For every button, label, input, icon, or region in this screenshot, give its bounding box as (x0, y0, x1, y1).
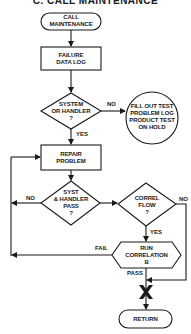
repair-problem-label: REPAIR PROBLEM (41, 151, 101, 165)
correl-flow-label: CORREL FLOW ? (118, 195, 176, 216)
failure-data-log-label: FAILURE DATA LOG (41, 52, 101, 66)
system-or-handler-label: SYSTEM OR HANDLER ? (41, 101, 101, 122)
run-pass-label: PASS (127, 270, 143, 277)
system-yes-label: YES (76, 131, 88, 138)
syst-handler-pass-label: SYST & HANDLER PASS ? (41, 189, 101, 217)
correl-yes-label: YES (150, 229, 162, 236)
run-fail-label: FAIL (95, 245, 108, 252)
call-maintenance-label: CALL MAINTENANCE (41, 14, 101, 28)
fill-out-test-label: FILL OUT TEST PROBLEM LOG PRODUCT TEST O… (126, 103, 178, 131)
correl-no-label: NO (179, 196, 188, 203)
flowchart-shapes (0, 0, 191, 334)
flowchart: C. CALL MAINTENANCE (0, 0, 191, 334)
run-correlation-label: RUN CORRELATION B (112, 245, 181, 266)
return-label: RETURN (119, 316, 172, 323)
syst-pass-no-label: NO (26, 195, 35, 202)
system-no-label: NO (107, 101, 116, 108)
